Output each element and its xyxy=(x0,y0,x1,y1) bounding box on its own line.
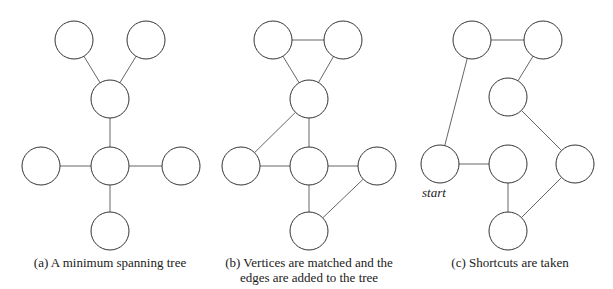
vertex xyxy=(91,212,129,250)
vertex xyxy=(556,145,594,183)
vertex xyxy=(91,80,129,118)
vertex xyxy=(489,212,527,250)
edge xyxy=(521,110,561,150)
caption-b-line2: edges are added to the tree xyxy=(214,270,404,285)
vertex xyxy=(55,21,93,59)
vertex xyxy=(290,80,328,118)
vertex xyxy=(162,147,200,185)
vertex xyxy=(324,21,362,59)
edge xyxy=(518,56,533,81)
edge xyxy=(283,56,299,83)
vertex xyxy=(489,145,527,183)
vertex xyxy=(421,145,459,183)
vertex xyxy=(524,21,562,59)
panel-c xyxy=(421,21,594,250)
vertex xyxy=(453,21,491,59)
vertex xyxy=(358,147,396,185)
edge xyxy=(521,177,561,217)
edge xyxy=(84,56,100,83)
edge xyxy=(255,112,296,152)
start-label: start xyxy=(422,185,446,201)
vertex xyxy=(91,147,129,185)
edge xyxy=(445,58,468,145)
caption-a: (a) A minimum spanning tree xyxy=(20,255,200,270)
vertex xyxy=(489,78,527,116)
edge xyxy=(120,56,136,83)
caption-c: (c) Shortcuts are taken xyxy=(430,255,590,270)
edge xyxy=(323,179,364,218)
vertex xyxy=(254,21,292,59)
edge xyxy=(318,56,333,82)
tsp-approximation-diagram xyxy=(0,0,613,289)
vertex xyxy=(290,147,328,185)
panel-a xyxy=(22,21,200,250)
vertex xyxy=(222,147,260,185)
vertex xyxy=(22,147,60,185)
caption-b-line1: (b) Vertices are matched and the xyxy=(214,255,404,270)
vertex xyxy=(127,21,165,59)
vertex xyxy=(290,212,328,250)
panel-b xyxy=(222,21,396,250)
